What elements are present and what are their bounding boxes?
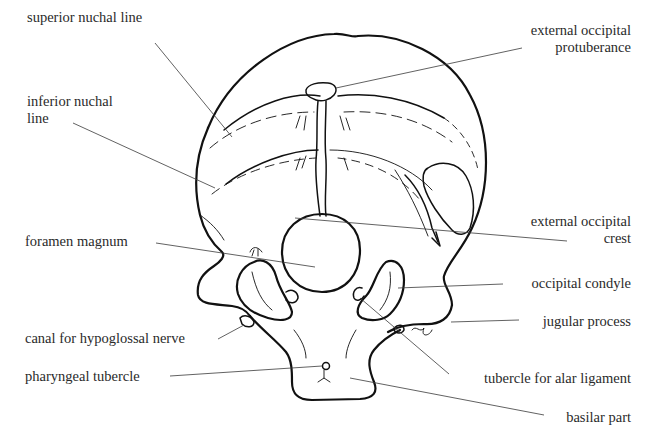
label-foramen-magnum: foramen magnum bbox=[25, 233, 128, 250]
label-inferior-nuchal-line: inferior nuchal line bbox=[27, 93, 113, 127]
label-text: superior nuchal line bbox=[27, 9, 142, 25]
label-canal-for-hypoglossal-nerve: canal for hypoglossal nerve bbox=[25, 330, 185, 347]
right-alar-tubercle bbox=[353, 288, 364, 301]
label-text: pharyngeal tubercle bbox=[25, 368, 140, 384]
external-occipital-protuberance-drawing bbox=[306, 83, 336, 101]
label-text: foramen magnum bbox=[25, 233, 128, 249]
label-jugular-process: jugular process bbox=[543, 313, 631, 330]
label-text: basilar part bbox=[566, 409, 631, 425]
label-basilar-part: basilar part bbox=[566, 409, 631, 426]
label-text: occipital condyle bbox=[532, 275, 631, 291]
label-text: external occipital bbox=[531, 213, 631, 229]
label-text: protuberance bbox=[555, 39, 631, 55]
label-pharyngeal-tubercle: pharyngeal tubercle bbox=[25, 368, 140, 385]
label-text: jugular process bbox=[543, 313, 631, 329]
label-text: crest bbox=[604, 230, 631, 246]
left-hypoglossal-canal bbox=[240, 316, 254, 327]
right-occipital-condyle-drawing bbox=[358, 261, 404, 320]
label-superior-nuchal-line: superior nuchal line bbox=[27, 9, 142, 26]
basilar-part-drawing bbox=[250, 316, 400, 400]
label-text: tubercle for alar ligament bbox=[484, 370, 631, 386]
label-text: external occipital bbox=[531, 22, 631, 38]
label-external-occipital-crest: external occipital crest bbox=[531, 213, 631, 247]
label-tubercle-for-alar-ligament: tubercle for alar ligament bbox=[484, 370, 631, 387]
left-alar-tubercle bbox=[286, 290, 298, 302]
pharyngeal-tubercle-mark bbox=[323, 363, 330, 370]
label-text: line bbox=[27, 110, 49, 126]
label-text: canal for hypoglossal nerve bbox=[25, 330, 185, 346]
label-external-occipital-protuberance: external occipital protuberance bbox=[531, 22, 631, 56]
label-text: inferior nuchal bbox=[27, 93, 113, 109]
leader-lines bbox=[73, 43, 567, 415]
label-occipital-condyle: occipital condyle bbox=[532, 275, 631, 292]
foramen-magnum-drawing bbox=[282, 214, 360, 292]
